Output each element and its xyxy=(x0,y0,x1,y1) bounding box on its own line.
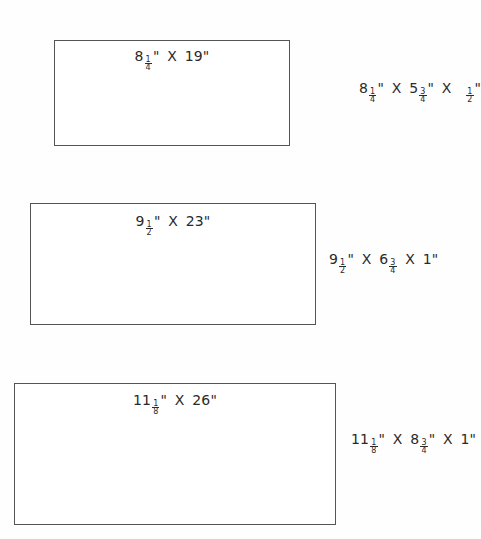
length-measure: 23" xyxy=(186,213,211,229)
inch-mark: " xyxy=(379,431,386,447)
document-page: 8 1 4 " X 19" 8 1 4 " X 5 3 4 xyxy=(0,0,481,539)
whole-number: 1 xyxy=(460,431,469,447)
fraction: 3 4 xyxy=(389,259,396,274)
denominator: 4 xyxy=(419,96,426,103)
whole-number: 9 xyxy=(329,251,338,267)
denominator: 8 xyxy=(370,447,377,454)
envelope-size-label-1: 8 1 4 " X 19" xyxy=(55,48,289,70)
times-separator: X xyxy=(392,80,402,96)
denominator: 2 xyxy=(146,229,153,236)
times-separator: X xyxy=(168,213,178,229)
inch-mark: " xyxy=(377,80,384,96)
envelope-size-label-2: 9 1 2 " X 23" xyxy=(31,213,315,235)
dimension-part: 5 3 4 " xyxy=(409,80,434,102)
length-measure: 19" xyxy=(185,48,210,64)
times-separator: X xyxy=(443,431,453,447)
whole-number: 1 xyxy=(423,251,432,267)
whole-number: 11 xyxy=(133,392,151,408)
inch-mark: " xyxy=(154,213,161,229)
box-dimensions-label-3: 11 1 8 " X 8 3 4 " X 1 " xyxy=(351,431,476,453)
fraction: 1 8 xyxy=(370,439,377,454)
dimension-part: 8 3 4 " xyxy=(410,431,435,453)
envelope-diagram-1: 8 1 4 " X 19" xyxy=(54,40,290,146)
denominator: 8 xyxy=(152,408,159,415)
width-measure: 11 1 8 " xyxy=(133,392,167,414)
denominator: 4 xyxy=(145,64,152,71)
times-separator: X xyxy=(362,251,372,267)
dimension-part: 9 1 2 " xyxy=(329,251,354,273)
denominator: 2 xyxy=(339,267,346,274)
box-dimensions-label-2: 9 1 2 " X 6 3 4 X 1 " xyxy=(329,251,438,273)
times-separator: X xyxy=(442,80,452,96)
whole-number: 6 xyxy=(379,251,388,267)
whole-number: 11 xyxy=(351,431,369,447)
times-separator: X xyxy=(175,392,185,408)
inch-mark: " xyxy=(153,48,160,64)
dimension-part: 6 3 4 xyxy=(379,251,397,273)
box-dimensions-label-1: 8 1 4 " X 5 3 4 " X 1 2 " xyxy=(359,80,481,102)
denominator: 4 xyxy=(369,96,376,103)
times-separator: X xyxy=(393,431,403,447)
dimension-part: 8 1 4 " xyxy=(359,80,384,102)
inch-mark: " xyxy=(160,392,167,408)
width-measure: 9 1 2 " xyxy=(135,213,160,235)
dimension-part: 1 2 " xyxy=(465,80,481,102)
dimension-part: 1 " xyxy=(460,431,476,447)
fraction: 1 4 xyxy=(369,88,376,103)
inch-mark: " xyxy=(470,431,477,447)
denominator: 2 xyxy=(466,96,473,103)
whole-number: 8 xyxy=(410,431,419,447)
dimension-part: 11 1 8 " xyxy=(351,431,385,453)
width-measure: 8 1 4 " xyxy=(134,48,159,70)
dimension-part: 1 " xyxy=(423,251,439,267)
fraction: 3 4 xyxy=(419,88,426,103)
whole-number: 9 xyxy=(135,213,144,229)
inch-mark: " xyxy=(347,251,354,267)
fraction: 1 4 xyxy=(145,56,152,71)
inch-mark: " xyxy=(475,80,481,96)
times-separator: X xyxy=(405,251,415,267)
fraction: 1 2 xyxy=(339,259,346,274)
envelope-size-label-3: 11 1 8 " X 26" xyxy=(15,392,335,414)
whole-number: 5 xyxy=(409,80,418,96)
whole-number: 8 xyxy=(134,48,143,64)
inch-mark: " xyxy=(428,80,435,96)
fraction: 3 4 xyxy=(420,439,427,454)
inch-mark: " xyxy=(429,431,436,447)
fraction: 1 2 xyxy=(466,88,473,103)
denominator: 4 xyxy=(420,447,427,454)
fraction: 1 8 xyxy=(152,400,159,415)
times-separator: X xyxy=(167,48,177,64)
envelope-diagram-2: 9 1 2 " X 23" xyxy=(30,203,316,325)
envelope-diagram-3: 11 1 8 " X 26" xyxy=(14,383,336,525)
length-measure: 26" xyxy=(192,392,217,408)
whole-number: 8 xyxy=(359,80,368,96)
inch-mark: " xyxy=(432,251,439,267)
fraction: 1 2 xyxy=(146,221,153,236)
denominator: 4 xyxy=(389,267,396,274)
